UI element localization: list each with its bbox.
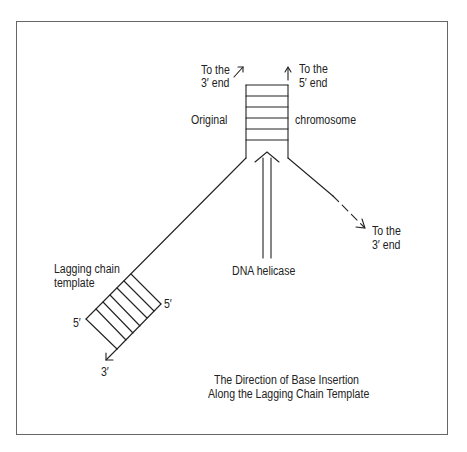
label-right-line2: 3′ end: [372, 238, 400, 252]
label-top-left-line2: 3′ end: [201, 76, 229, 90]
arrow-up-right-icon: [234, 67, 243, 77]
caption-line1: The Direction of Base Insertion: [214, 373, 359, 387]
label-lagging-line2: template: [54, 276, 95, 290]
label-top-right-line2: 5′ end: [299, 76, 327, 90]
label-dna-helicase: DNA helicase: [232, 264, 295, 278]
label-original: Original: [191, 113, 227, 127]
label-five-prime-left: 5′: [73, 316, 81, 330]
original-chromosome-ladder: [246, 85, 288, 158]
arrow-down-left-icon: [106, 349, 117, 360]
label-lagging-line1: Lagging chain: [54, 262, 120, 276]
label-top-left-line1: To the: [201, 63, 230, 77]
arrow-up-icon: [285, 67, 291, 80]
label-top-right-line1: To the: [299, 62, 328, 76]
caption-line2: Along the Lagging Chain Template: [208, 387, 369, 401]
label-right-line1: To the: [372, 224, 401, 238]
leading-strand-line: [288, 158, 365, 228]
label-three-prime-bottom: 3′: [101, 365, 109, 379]
label-chromosome: chromosome: [295, 113, 356, 127]
label-five-prime-right: 5′: [164, 297, 172, 311]
helicase-arrow-icon: [255, 152, 279, 258]
lagging-template-ladder: [86, 274, 161, 349]
